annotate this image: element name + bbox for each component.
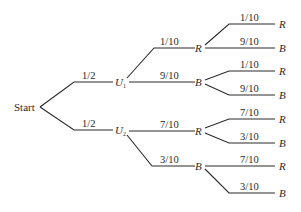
edge-start-u2 (40, 107, 113, 130)
prob-u2-b-b: 3/10 (240, 181, 259, 192)
node-u1: U1 (115, 76, 126, 89)
edge-u1-b-r (205, 71, 275, 80)
node-u2-b: B (195, 160, 202, 172)
node-u2-r: R (194, 125, 202, 137)
leaf-u2-r-r: R (278, 113, 286, 125)
probability-tree-diagram: Start 1/2 1/2 U1 U2 1/10 9/10 7/10 3/10 … (0, 0, 301, 212)
prob-u1-r-r: 1/10 (240, 12, 259, 23)
prob-u1-r-b: 9/10 (240, 36, 259, 47)
node-u1-r: R (194, 42, 202, 54)
edge-start-u1 (40, 82, 113, 107)
start-node-label: Start (14, 101, 35, 113)
prob-u1-b-b: 9/10 (240, 83, 259, 94)
node-u1-b: B (195, 76, 202, 88)
prob-u1-b: 9/10 (160, 70, 179, 81)
prob-u2-r: 7/10 (160, 119, 179, 130)
leaf-u1-b-r: R (278, 65, 286, 77)
prob-u1-r: 1/10 (160, 36, 179, 47)
node-u2: U2 (115, 124, 126, 137)
prob-u2-b: 3/10 (160, 154, 179, 165)
prob-start-u2: 1/2 (82, 118, 95, 129)
prob-u1-b-r: 1/10 (240, 59, 259, 70)
prob-u2-r-r: 7/10 (240, 107, 259, 118)
prob-u2-b-r: 7/10 (240, 154, 259, 165)
edge-u2-r-r (205, 119, 275, 128)
leaf-u2-b-r: R (278, 160, 286, 172)
prob-start-u1: 1/2 (82, 70, 95, 81)
leaf-u2-b-b: B (279, 187, 286, 199)
leaf-u1-r-b: B (279, 42, 286, 54)
leaf-u1-r-r: R (278, 18, 286, 30)
leaf-u1-b-b: B (279, 89, 286, 101)
leaf-u2-r-b: B (279, 137, 286, 149)
prob-u2-r-b: 3/10 (240, 131, 259, 142)
